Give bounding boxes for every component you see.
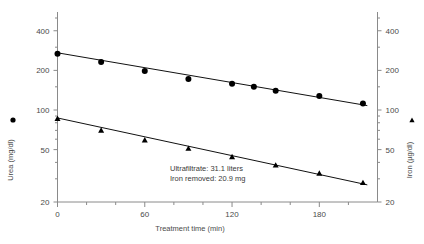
x-tick-label: 120	[225, 210, 239, 219]
data-point-urea	[142, 68, 148, 74]
data-point-urea	[251, 84, 257, 90]
y-tick-label-right: 400	[386, 27, 400, 36]
iron-legend-marker-icon	[409, 118, 414, 123]
annotation-text-2: Iron removed: 20.9 mg	[170, 174, 245, 183]
y-tick-label-right: 20	[386, 198, 395, 207]
y-tick-label-left: 100	[36, 106, 50, 115]
y-tick-label-right: 200	[386, 66, 400, 75]
data-point-iron	[360, 180, 366, 185]
x-tick-label: 60	[140, 210, 149, 219]
data-point-urea	[360, 101, 366, 107]
annotation-text-1: Ultrafiltrate: 31.1 liters	[170, 164, 243, 173]
data-point-iron	[142, 137, 148, 142]
data-point-urea	[229, 81, 235, 87]
chart-figure: 20501002004002050100200400060120180Treat…	[0, 0, 424, 244]
y-tick-label-right: 100	[386, 106, 400, 115]
x-tick-label: 180	[313, 210, 327, 219]
x-tick-label: 0	[55, 210, 60, 219]
y-tick-label-right: 50	[386, 146, 395, 155]
data-point-urea	[55, 51, 61, 57]
y-axis-title-left-text: Urea (mg/dl)	[6, 139, 15, 181]
y-tick-label-left: 400	[36, 27, 50, 36]
y-tick-label-left: 50	[41, 146, 50, 155]
y-tick-label-left: 20	[41, 198, 50, 207]
y-tick-label-left: 200	[36, 66, 50, 75]
chart-canvas: 20501002004002050100200400060120180Treat…	[0, 0, 424, 244]
data-point-urea	[185, 76, 191, 82]
data-point-iron	[316, 170, 322, 175]
data-point-urea	[273, 88, 279, 94]
urea-legend-marker-icon	[10, 117, 15, 122]
data-point-urea	[98, 59, 104, 65]
y-axis-title-right-text: Iron (µg/dl)	[405, 141, 414, 178]
x-axis-title-text: Treatment time (min)	[155, 224, 225, 233]
data-point-urea	[316, 93, 322, 99]
